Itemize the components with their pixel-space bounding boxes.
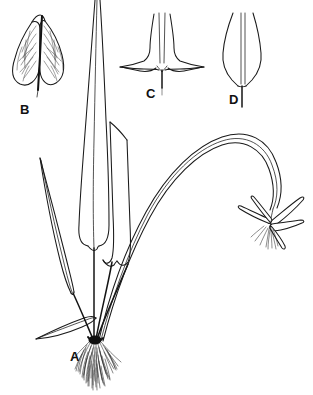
panel-a-label: A: [70, 349, 80, 364]
petiole-left-slender: [73, 293, 93, 339]
botanical-plate-svg: B C: [0, 0, 313, 395]
panel-c-label: C: [146, 86, 156, 101]
panel-c-midrib-right: [164, 13, 165, 63]
leaf-central-tall-left-margin: [79, 0, 95, 246]
panel-b-venation-left: [17, 26, 36, 81]
panel-c-midrib-left: [159, 13, 160, 63]
leaf-basal-small-lower-margin: [36, 318, 96, 339]
leaf-central-tall-right-margin: [99, 0, 109, 246]
panel-b-midrib-tail: [37, 90, 38, 97]
leaf-left-slender-upper-margin: [40, 158, 74, 292]
panel-b-figure: B: [13, 15, 64, 117]
panel-d-figure: D: [223, 13, 261, 107]
panel-b-label: B: [20, 102, 29, 117]
panel-d-right-margin: [246, 13, 261, 86]
leaf-central-tall-midrib: [93, 0, 97, 248]
panel-c-figure: C: [120, 13, 204, 101]
panel-d-left-margin: [223, 13, 238, 86]
panel-d-label: D: [229, 92, 238, 107]
leaf-centre-right-tip-join: [110, 122, 127, 140]
panel-a-figure: A: [36, 0, 304, 390]
scape-arch-midline: [101, 138, 277, 340]
illustration-plate: B C: [0, 0, 313, 395]
panel-c-left-margin: [120, 14, 156, 71]
panel-c-right-margin: [168, 14, 204, 71]
leaf-basal-small-midrib: [38, 318, 96, 338]
flower-head: [238, 196, 304, 249]
